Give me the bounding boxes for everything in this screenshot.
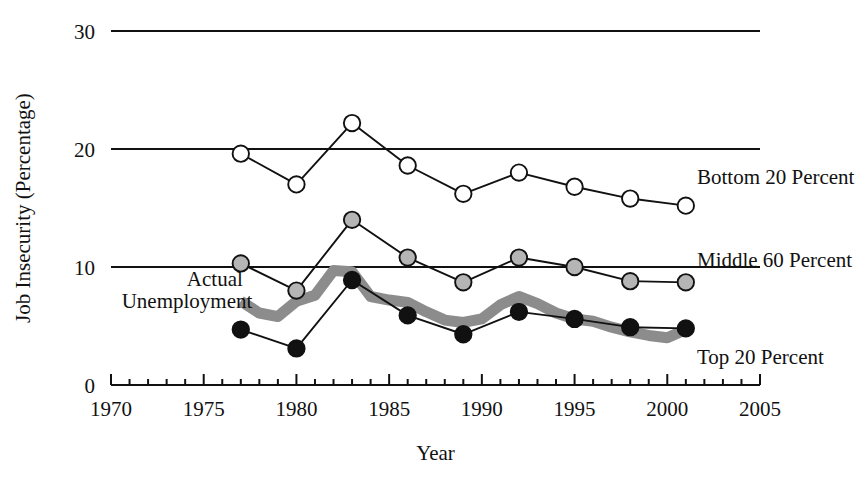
- marker-open-circle-1983: [344, 115, 360, 131]
- marker-open-circle-1977: [233, 146, 249, 162]
- marker-gray-circle-1983: [344, 212, 360, 228]
- marker-open-circle-1986: [399, 157, 415, 173]
- y-tick-label-20: 20: [74, 138, 95, 162]
- x-tick-label-2000: 2000: [646, 397, 688, 421]
- marker-gray-circle-1998: [622, 273, 638, 289]
- marker-gray-circle-1980: [288, 282, 304, 298]
- annotation-actual: Actual: [187, 267, 243, 291]
- y-axis-title: Job Insecurity (Percentage): [11, 93, 35, 323]
- marker-open-circle-1998: [622, 190, 638, 206]
- x-tick-label-2005: 2005: [739, 397, 781, 421]
- marker-gray-circle-2001: [678, 274, 694, 290]
- marker-open-circle-1992: [511, 164, 527, 180]
- marker-open-circle-1995: [566, 179, 582, 195]
- figure-container: 0102030 19701975198019851990199520002005…: [0, 0, 864, 498]
- series-lines-group: [241, 123, 686, 348]
- x-axis-group: [111, 374, 760, 385]
- marker-filled-circle-1992: [511, 304, 527, 320]
- marker-filled-circle-2001: [678, 320, 694, 336]
- marker-open-circle-2001: [678, 197, 694, 213]
- marker-filled-circle-1986: [399, 307, 415, 323]
- y-tick-label-30: 30: [74, 20, 95, 44]
- marker-filled-circle-1983: [344, 272, 360, 288]
- marker-filled-circle-1977: [233, 321, 249, 337]
- marker-open-circle-1989: [455, 186, 471, 202]
- x-tick-labels-group: 19701975198019851990199520002005: [90, 397, 781, 421]
- series-label-2: Top 20 Percent: [697, 345, 824, 369]
- x-tick-label-1985: 1985: [368, 397, 410, 421]
- marker-open-circle-1980: [288, 176, 304, 192]
- series-label-1: Middle 60 Percent: [697, 248, 852, 272]
- marker-gray-circle-1992: [511, 249, 527, 265]
- marker-gray-circle-1986: [399, 249, 415, 265]
- y-tick-label-10: 10: [74, 256, 95, 280]
- marker-gray-circle-1989: [455, 274, 471, 290]
- y-tick-label-0: 0: [85, 374, 96, 398]
- annotation-unemployment: Unemployment: [122, 289, 253, 313]
- gridlines-group: [111, 31, 760, 267]
- x-tick-label-1980: 1980: [275, 397, 317, 421]
- marker-filled-circle-1980: [288, 340, 304, 356]
- x-tick-label-1975: 1975: [183, 397, 225, 421]
- x-tick-label-1970: 1970: [90, 397, 132, 421]
- y-tick-labels-group: 0102030: [74, 20, 95, 398]
- marker-filled-circle-1995: [566, 311, 582, 327]
- marker-gray-circle-1995: [566, 259, 582, 275]
- series-label-0: Bottom 20 Percent: [697, 165, 855, 189]
- job-insecurity-line-chart: 0102030 19701975198019851990199520002005…: [0, 0, 864, 498]
- marker-filled-circle-1989: [455, 326, 471, 342]
- x-tick-label-1990: 1990: [461, 397, 503, 421]
- x-axis-title: Year: [416, 441, 455, 465]
- marker-filled-circle-1998: [622, 319, 638, 335]
- x-tick-label-1995: 1995: [554, 397, 596, 421]
